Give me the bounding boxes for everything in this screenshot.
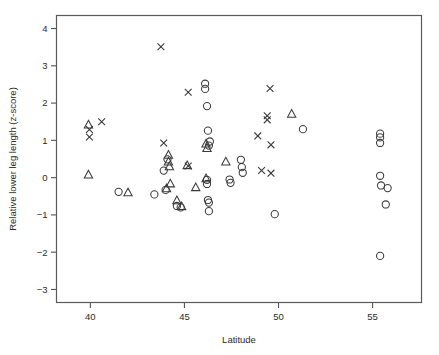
y-tick-label-2: 2 bbox=[42, 97, 47, 108]
y-tick-label-3: 3 bbox=[42, 60, 47, 71]
x-tick-label-55: 55 bbox=[367, 311, 378, 322]
y-tick-label--1: −1 bbox=[37, 209, 48, 220]
scatter-plot-figure: 40455055 43210−1−2−3 Latitude Relative l… bbox=[0, 0, 439, 355]
y-tick-label-0: 0 bbox=[42, 172, 47, 183]
x-tick-label-50: 50 bbox=[273, 311, 284, 322]
y-tick-label--2: −2 bbox=[37, 247, 48, 258]
plot-canvas: 40455055 43210−1−2−3 Latitude Relative l… bbox=[0, 0, 439, 355]
x-tick-label-45: 45 bbox=[179, 311, 190, 322]
x-tick-label-40: 40 bbox=[85, 311, 96, 322]
y-axis-title: Relative lower leg length (z-score) bbox=[7, 87, 18, 231]
x-axis-title: Latitude bbox=[222, 334, 256, 345]
y-tick-label-4: 4 bbox=[42, 23, 47, 34]
y-tick-label--3: −3 bbox=[37, 284, 48, 295]
y-tick-label-1: 1 bbox=[42, 135, 47, 146]
figure-background bbox=[0, 0, 439, 355]
